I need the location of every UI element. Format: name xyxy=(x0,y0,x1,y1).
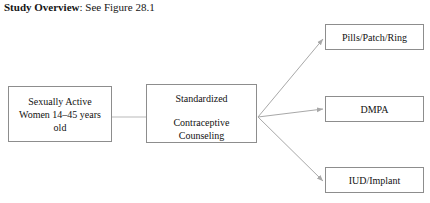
arrow-intervention-to-pills xyxy=(258,39,323,117)
node-population-line-2: Women 14–45 years xyxy=(19,108,101,121)
node-population-line-3: old xyxy=(54,121,67,134)
node-intervention-line-2: Contraceptive xyxy=(173,116,229,129)
node-outcome-iud-label: IUD/Implant xyxy=(349,174,401,187)
node-intervention-line-1: Standardized xyxy=(175,92,227,105)
node-intervention-line-3: Counseling xyxy=(179,129,225,142)
node-intervention: Standardized Contraceptive Counseling xyxy=(146,84,257,143)
node-population: Sexually Active Women 14–45 years old xyxy=(8,86,112,142)
node-outcome-pills: Pills/Patch/Ring xyxy=(325,24,424,50)
node-outcome-dmpa-label: DMPA xyxy=(361,103,389,116)
node-outcome-dmpa: DMPA xyxy=(325,96,424,122)
node-population-line-1: Sexually Active xyxy=(28,95,92,108)
arrow-intervention-to-iud xyxy=(258,117,323,181)
arrow-intervention-to-dmpa xyxy=(258,109,323,117)
figure-canvas: Study Overview: See Figure 28.1 Sexually… xyxy=(0,0,430,203)
node-outcome-iud: IUD/Implant xyxy=(325,167,424,193)
node-outcome-pills-label: Pills/Patch/Ring xyxy=(342,31,407,44)
